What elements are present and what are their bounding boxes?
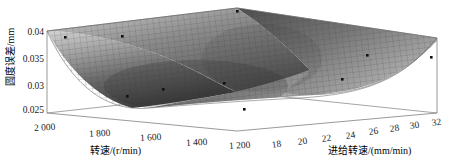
ztick-label: 30 [409,121,420,132]
data-point [162,88,165,91]
data-point [243,108,246,111]
ztick-label: 24 [345,131,356,142]
data-point [366,54,369,57]
x-axis-title: 转速/(r/min) [90,146,141,156]
data-point [126,95,129,98]
y-axis-title: 圆度误差/mm [6,20,16,94]
xtick-label: 1 800 [89,129,111,140]
surface-chart: 0.04 0.035 0.03 0.025 圆度误差/mm 2 000 1 80… [0,0,454,166]
ztick-label: 22 [321,134,332,145]
ztick-label: 26 [368,127,379,138]
z-axis-title: 进给转速/(mm/min) [328,146,411,156]
data-point [430,56,433,59]
xtick-label: 2 000 [34,123,56,134]
ztick-label: 32 [431,118,442,129]
xtick-label: 1 200 [229,141,251,152]
chart-canvas [0,0,454,166]
data-point [236,10,239,13]
data-point [223,82,226,85]
data-point [121,35,124,38]
ztick-label: 28 [389,124,400,135]
ztick-label: 18 [271,140,282,151]
xtick-label: 1 600 [140,133,162,144]
data-point [341,78,344,81]
data-point [64,36,67,39]
xtick-label: 1 400 [186,138,208,149]
ztick-label: 20 [297,137,308,148]
ytick-label: 0.025 [4,106,44,116]
